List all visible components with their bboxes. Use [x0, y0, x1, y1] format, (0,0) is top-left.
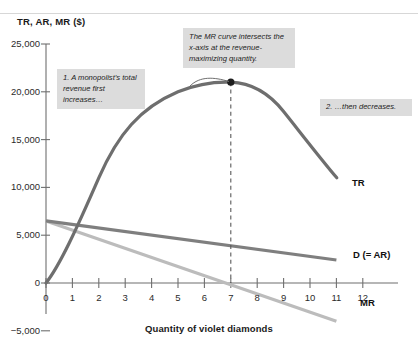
x-tick-label-3: 3 [113, 292, 137, 303]
x-tick-label-6: 6 [192, 292, 216, 303]
y-tick-label-10000: 10,000 [0, 181, 40, 192]
annotation-then-decreases: 2. …then decreases. [320, 99, 412, 116]
y-tick-label-5000: 5,000 [0, 229, 40, 240]
x-tick-label-5: 5 [166, 292, 190, 303]
tr-curve-label: TR [352, 177, 365, 188]
revenue-maximizing-point-marker [227, 79, 234, 86]
x-tick-label-10: 10 [298, 292, 322, 303]
x-tick-label-2: 2 [87, 292, 111, 303]
annotation-monopolist-revenue-increases: 1. A monopolist’s total revenue first in… [57, 69, 145, 109]
x-tick-label-0: 0 [34, 292, 58, 303]
x-tick-label-1: 1 [60, 292, 84, 303]
annotation-mr-intersects-x-axis: The MR curve intersects the x-axis at th… [183, 28, 295, 68]
chart-figure: TR, AR, MR ($) Quantity of violet diamon… [0, 0, 418, 347]
x-tick-label-9: 9 [272, 292, 296, 303]
x-tick-label-8: 8 [245, 292, 269, 303]
x-tick-label-7: 7 [219, 292, 243, 303]
demand-ar-curve [46, 221, 336, 260]
demand-ar-curve-label: D (= AR) [353, 249, 390, 260]
y-tick-label-0: 0 [0, 277, 40, 288]
y-tick-label-15000: 15,000 [0, 134, 40, 145]
mr-curve-label: MR [360, 297, 375, 308]
x-tick-label-4: 4 [140, 292, 164, 303]
y-tick-label-20000: 20,000 [0, 86, 40, 97]
mr-curve [46, 221, 336, 321]
y-tick-label-neg5000: −5,000 [0, 325, 40, 336]
x-tick-label-11: 11 [324, 292, 348, 303]
y-tick-label-25000: 25,000 [0, 38, 40, 49]
